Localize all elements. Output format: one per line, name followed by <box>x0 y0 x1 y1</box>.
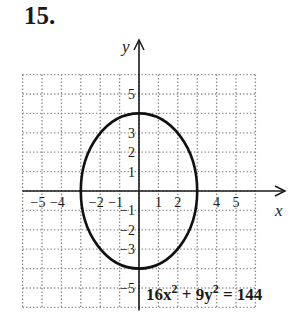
svg-text:−2: −2 <box>89 195 104 210</box>
svg-text:2: 2 <box>174 195 181 210</box>
y-axis-label: y <box>120 37 130 56</box>
svg-text:2: 2 <box>128 145 135 160</box>
equation-label: 16x2 + 9y2 = 144 <box>146 282 263 304</box>
svg-text:−4: −4 <box>50 195 65 210</box>
svg-text:5: 5 <box>128 87 135 102</box>
svg-text:1: 1 <box>155 195 162 210</box>
svg-text:−2: −2 <box>120 223 135 238</box>
axes <box>23 40 285 310</box>
svg-text:5: 5 <box>233 195 240 210</box>
x-axis-label: x <box>274 201 283 220</box>
svg-text:−1: −1 <box>120 203 135 218</box>
svg-text:−5: −5 <box>120 281 135 296</box>
svg-text:4: 4 <box>213 195 220 210</box>
ellipse-graph: −5−4−2−112455321−1−2−3−5 x y 16x2 + 9y2 … <box>0 0 306 325</box>
svg-text:−5: −5 <box>31 195 46 210</box>
svg-text:−3: −3 <box>120 242 135 257</box>
svg-text:3: 3 <box>128 126 135 141</box>
svg-text:1: 1 <box>128 165 135 180</box>
